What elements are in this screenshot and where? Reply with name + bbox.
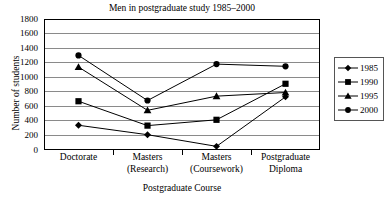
- data-point: [144, 97, 150, 103]
- x-tick-label: PostgraduateDiploma: [242, 152, 330, 175]
- data-point: [282, 63, 288, 69]
- x-tick-label-line: Postgraduate: [242, 152, 330, 164]
- data-point: [75, 52, 81, 58]
- y-tick-label: 600: [4, 102, 38, 111]
- series-markers-1995: [75, 63, 290, 113]
- data-point: [144, 123, 150, 129]
- plot-area: [44, 19, 320, 150]
- legend-label: 1995: [359, 91, 378, 101]
- series-markers-1990: [75, 81, 288, 129]
- legend-marker-diamond-icon: [337, 62, 359, 74]
- x-axis-title: Postgraduate Course: [44, 183, 320, 193]
- plot-frame: [45, 20, 320, 150]
- series-1985: [79, 97, 286, 146]
- data-point: [75, 63, 83, 70]
- legend-item-1985[interactable]: 1985: [337, 61, 381, 75]
- y-tick-label: 800: [4, 87, 38, 96]
- x-tick-label-line: Diploma: [242, 164, 330, 176]
- y-tick-label: 1200: [4, 58, 38, 67]
- legend-label: 2000: [359, 105, 378, 115]
- series-1995: [79, 67, 286, 110]
- chart-legend: 1985199019952000: [334, 57, 384, 121]
- y-tick-label: 400: [4, 116, 38, 125]
- legend-label: 1985: [359, 63, 378, 73]
- data-point: [144, 131, 151, 138]
- y-tick-label: 1600: [4, 29, 38, 38]
- legend-marker-square-icon: [337, 76, 359, 88]
- y-tick-label: 1400: [4, 44, 38, 53]
- chart-title: Men in postgraduate study 1985–2000: [44, 2, 320, 14]
- data-point: [75, 122, 82, 129]
- data-point: [75, 98, 81, 104]
- data-point: [213, 143, 220, 150]
- chart-figure: Men in postgraduate study 1985–2000 Numb…: [0, 0, 388, 201]
- data-point: [282, 81, 288, 87]
- chart-canvas: [44, 19, 320, 156]
- series-markers-1985: [75, 93, 289, 149]
- legend-marker-triangle-icon: [337, 90, 359, 102]
- y-tick-label: 200: [4, 131, 38, 140]
- legend-item-1995[interactable]: 1995: [337, 89, 381, 103]
- series-markers-2000: [75, 52, 288, 103]
- data-point: [213, 61, 219, 67]
- y-tick-label: 1800: [4, 15, 38, 24]
- legend-item-2000[interactable]: 2000: [337, 103, 381, 117]
- series-line: [79, 67, 286, 110]
- data-point: [213, 117, 219, 123]
- y-tick-label: 0: [4, 146, 38, 155]
- y-tick-label: 1000: [4, 73, 38, 82]
- legend-label: 1990: [359, 77, 378, 87]
- legend-item-1990[interactable]: 1990: [337, 75, 381, 89]
- series-line: [79, 97, 286, 146]
- legend-marker-circle-icon: [337, 104, 359, 116]
